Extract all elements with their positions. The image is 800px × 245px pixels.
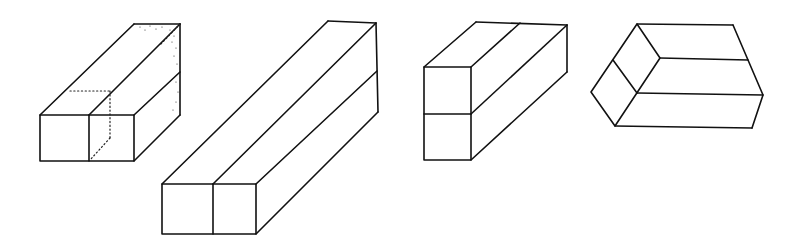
prism-2-side-mid-edge — [256, 71, 377, 184]
prism-2-back-top-edge — [328, 21, 376, 23]
prism-3-back-top-edge — [476, 22, 567, 25]
prism-4-upper-mid-edge — [660, 58, 748, 60]
figure-canvas — [0, 0, 800, 245]
prism-2-front-face — [162, 184, 256, 234]
prism-1 — [40, 24, 180, 161]
prism-2-bottom-right-edge — [256, 112, 378, 234]
prism-2-top-mid-edge — [213, 23, 376, 184]
prism-3 — [424, 22, 567, 160]
prism-4-end-face — [591, 24, 660, 126]
prism-3-top-mid-edge — [471, 23, 520, 67]
prism-3-bottom-right-edge — [471, 72, 567, 160]
prism-1-hidden-diagonal — [90, 138, 110, 160]
prism-2-top-left-edge — [162, 21, 328, 184]
prism-4-end-face-divider — [613, 60, 637, 93]
prism-1-side-mid-edge — [134, 72, 180, 115]
prism-1-top-left-edge — [40, 24, 134, 115]
prism-3-top-left-edge — [424, 22, 476, 67]
prism-1-stipple — [139, 25, 178, 110]
prism-4 — [591, 24, 763, 128]
prism-1-front-face — [40, 115, 134, 161]
prism-3-side-mid-edge — [471, 25, 567, 114]
prism-2-back-right-edge — [376, 23, 378, 112]
prisms-diagram — [0, 0, 800, 245]
prism-4-far-end-edge — [733, 25, 763, 128]
prism-1-bottom-right-edge — [134, 115, 180, 161]
prism-4-lower-mid-edge — [637, 93, 763, 95]
prism-2 — [162, 21, 378, 234]
prism-4-top-edge — [637, 24, 733, 25]
prism-4-bottom-edge — [615, 126, 752, 128]
